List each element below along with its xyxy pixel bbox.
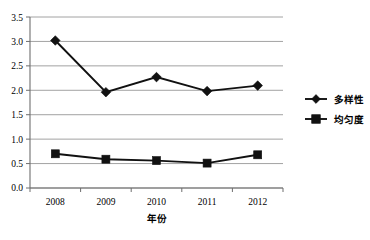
- y-tick-label: 2.5: [11, 61, 23, 71]
- data-point-junyundu-2010: [153, 157, 161, 165]
- y-tick-label: 0.5: [11, 159, 23, 169]
- y-tick-label: 2.0: [11, 86, 23, 96]
- x-tick-label-2010: 2010: [147, 197, 166, 207]
- legend-marker-square-icon: [312, 115, 321, 124]
- legend-label-junyundu: 均匀度: [334, 114, 364, 125]
- x-tick-label-2008: 2008: [46, 197, 65, 207]
- data-point-junyundu-2011: [203, 159, 211, 167]
- x-tick-label-2009: 2009: [96, 197, 115, 207]
- data-point-junyundu-2012: [254, 151, 262, 159]
- line-chart: 3.5 3.0 2.5 2.0 1.5 1.0 0.5 0.0 2008 200…: [0, 0, 370, 240]
- y-tick-label: 0.0: [11, 183, 23, 193]
- x-tick-label-2011: 2011: [198, 197, 217, 207]
- y-tick-label: 1.5: [11, 110, 23, 120]
- chart-canvas: 3.5 3.0 2.5 2.0 1.5 1.0 0.5 0.0 2008 200…: [0, 0, 370, 240]
- y-tick-label: 1.0: [11, 135, 23, 145]
- y-tick-label: 3.5: [11, 13, 23, 23]
- data-point-junyundu-2009: [102, 155, 110, 163]
- x-tick-label-2012: 2012: [248, 197, 267, 207]
- legend-label-duoyangxing: 多样性: [334, 94, 364, 105]
- data-point-junyundu-2008: [51, 150, 59, 158]
- legend-item-junyundu: 均匀度: [305, 114, 364, 125]
- x-axis-title: 年份: [147, 213, 167, 224]
- y-tick-label: 3.0: [11, 37, 23, 47]
